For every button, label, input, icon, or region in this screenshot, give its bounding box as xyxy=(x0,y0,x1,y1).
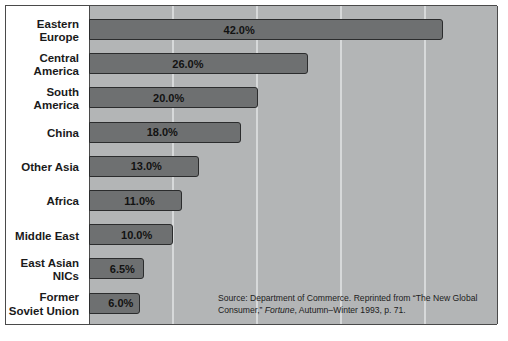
category-label: EasternEurope xyxy=(37,14,79,48)
category-label: East AsianNICs xyxy=(21,253,79,287)
chart-figure: EasternEurope42.0%CentralAmerica26.0%Sou… xyxy=(0,0,508,341)
bar-container xyxy=(89,19,443,43)
bar-value-label: 20.0% xyxy=(153,87,184,108)
category-label: Other Asia xyxy=(21,151,79,185)
bar-row: Africa11.0% xyxy=(6,185,496,219)
category-label-line1: Africa xyxy=(46,195,79,209)
category-label-line1: China xyxy=(47,127,79,141)
bar-value-label: 11.0% xyxy=(124,190,155,211)
source-line-1: Source: Department of Commerce. Reprinte… xyxy=(218,293,477,303)
category-label: CentralAmerica xyxy=(34,48,79,82)
bar-value-label: 18.0% xyxy=(147,122,178,143)
source-publication: Fortune xyxy=(265,305,295,315)
category-label-line1: Former xyxy=(39,291,79,305)
source-note: Source: Department of Commerce. Reprinte… xyxy=(218,293,486,316)
source-line-2-b: , Autumn–Winter 1993, p. 71. xyxy=(294,305,405,315)
category-label-line1: Middle East xyxy=(15,230,79,244)
category-label: Middle East xyxy=(15,219,79,253)
category-label-line1: Other Asia xyxy=(21,161,79,175)
category-label-line2: Soviet Union xyxy=(9,305,79,319)
bar-row: China18.0% xyxy=(6,117,496,151)
category-label-line1: East Asian xyxy=(21,257,79,271)
bar-row: Middle East10.0% xyxy=(6,219,496,253)
bar-row: CentralAmerica26.0% xyxy=(6,48,496,82)
category-label: Africa xyxy=(46,185,79,219)
category-label-line2: Europe xyxy=(39,31,79,45)
bar-value-label: 6.0% xyxy=(108,293,133,314)
bar-value-label: 6.5% xyxy=(110,258,135,279)
bar-value-label: 26.0% xyxy=(172,53,203,74)
category-label-line2: America xyxy=(34,99,79,113)
category-label: SouthAmerica xyxy=(34,82,79,116)
category-label-line2: America xyxy=(34,65,79,79)
chart-frame: EasternEurope42.0%CentralAmerica26.0%Sou… xyxy=(5,5,497,325)
category-label-line1: Central xyxy=(39,52,79,66)
category-label: FormerSoviet Union xyxy=(9,288,79,322)
bar-row: SouthAmerica20.0% xyxy=(6,82,496,116)
bar-row: EasternEurope42.0% xyxy=(6,14,496,48)
bar-value-label: 10.0% xyxy=(121,224,152,245)
category-label: China xyxy=(47,117,79,151)
category-label-line2: NICs xyxy=(53,270,79,284)
category-label-line1: South xyxy=(46,86,79,100)
source-line-2-a: Consumer,” xyxy=(218,305,265,315)
bar-value-label: 13.0% xyxy=(131,156,162,177)
bar-value-label: 42.0% xyxy=(224,19,255,40)
bar-row: Other Asia13.0% xyxy=(6,151,496,185)
category-label-line1: Eastern xyxy=(37,18,79,32)
bar-row: East AsianNICs6.5% xyxy=(6,253,496,287)
bar xyxy=(89,19,443,40)
